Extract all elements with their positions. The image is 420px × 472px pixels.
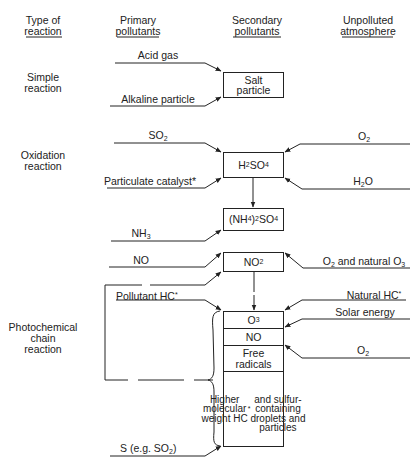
- no-box: NO: [223, 328, 284, 346]
- higher-mw-hc-box: Higher molecular weight HC* and sulfur- …: [223, 371, 284, 447]
- label-simple-reaction: Simple reaction: [24, 72, 61, 94]
- free-radicals-box: Free radicals: [223, 345, 284, 372]
- s-so2-label: S (e.g. SO2): [120, 443, 176, 457]
- pollutant-hc-label: Pollutant HC*: [116, 289, 178, 302]
- header-secondary-pollutants: Secondary pollutants: [232, 15, 282, 37]
- header-type-of-reaction: Type of reaction: [24, 15, 61, 37]
- alkaline-particle-label: Alkaline particle: [121, 94, 195, 105]
- h2o-arrow: [285, 178, 410, 189]
- particulate-catalyst-label: Particulate catalyst*: [104, 176, 196, 187]
- salt-particle-box: Salt particle: [223, 72, 284, 98]
- curly-brace: [208, 311, 220, 446]
- header-unpolluted-atmosphere: Unpolluted atmosphere: [340, 15, 395, 37]
- h2o-label: H2O: [353, 176, 373, 190]
- header-primary-pollutants: Primary pollutants: [116, 15, 161, 37]
- acid-gas-arrow: [115, 63, 221, 71]
- o2-label-2: O2: [357, 345, 369, 359]
- label-oxidation-reaction: Oxidation reaction: [21, 150, 65, 172]
- label-photochemical-chain-reaction: Photochemical chain reaction: [9, 322, 78, 355]
- so2-arrow: [114, 143, 221, 152]
- o2-free-radicals-arrow: [285, 345, 410, 358]
- solar-energy-arrow: [285, 319, 410, 327]
- h2so4-box: H2SO4: [223, 152, 284, 178]
- so2-label: SO2: [148, 130, 167, 144]
- natural-hc-label: Natural HC*: [347, 288, 402, 301]
- nh3-label: NH3: [131, 228, 150, 242]
- ammonium-sulfate-box: (NH4)2SO4: [223, 208, 284, 231]
- no-label: NO: [133, 255, 149, 266]
- o2-label: O2: [358, 131, 370, 145]
- no-arrow: [109, 253, 221, 267]
- o2-arrow: [285, 144, 410, 152]
- o2-natural-o3-label: O2 and natural O3: [323, 256, 406, 270]
- o3-box: O3: [223, 311, 284, 329]
- nh3-arrow: [111, 230, 221, 241]
- acid-gas-label: Acid gas: [138, 50, 178, 61]
- solar-energy-label: Solar energy: [335, 307, 395, 318]
- no2-box: NO2: [223, 252, 284, 272]
